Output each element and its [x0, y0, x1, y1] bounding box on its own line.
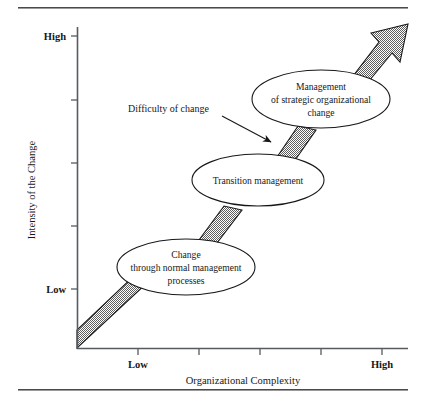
x-axis-title: Organizational Complexity — [186, 375, 301, 386]
x-axis-label-low: Low — [128, 359, 148, 370]
node-change-normal[interactable]: Change through normal management process… — [117, 239, 255, 295]
y-axis-title: Intensity of the Change — [26, 141, 37, 240]
figure-container: High Low Intensity of the Change Low Hig… — [0, 0, 424, 409]
node-change-normal-line-2: through normal management — [131, 262, 242, 273]
node-strategic-change-line-3: change — [307, 107, 334, 118]
y-axis: High Low Intensity of the Change — [26, 27, 78, 349]
node-change-normal-line-3: processes — [168, 275, 205, 286]
y-axis-label-high: High — [44, 31, 66, 42]
y-axis-label-low: Low — [46, 284, 66, 295]
annotation-difficulty-of-change: Difficulty of change — [128, 103, 271, 142]
x-axis-label-high: High — [371, 359, 393, 370]
node-transition-management[interactable]: Transition management — [192, 154, 324, 206]
x-axis: Low High Organizational Complexity — [77, 349, 408, 387]
node-change-normal-line-1: Change — [171, 249, 200, 260]
node-transition-management-line-1: Transition management — [213, 175, 304, 186]
annotation-arrow-icon — [222, 116, 271, 142]
node-strategic-change-line-1: Management — [296, 81, 346, 92]
annotation-label: Difficulty of change — [128, 103, 209, 114]
node-strategic-change[interactable]: Management of strategic organizational c… — [252, 70, 390, 128]
diagram-canvas: High Low Intensity of the Change Low Hig… — [0, 0, 424, 409]
node-strategic-change-line-2: of strategic organizational — [271, 94, 371, 105]
